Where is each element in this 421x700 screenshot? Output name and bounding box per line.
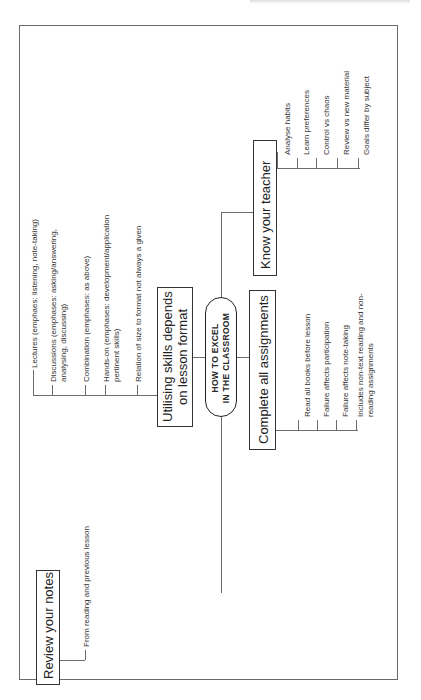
tick [33,370,34,395]
branch-review-notes-title: Review your notes [40,572,57,679]
leaf-item: From reading and previous lesson [82,526,92,647]
branch-lesson-format: Utilising skills depends on lesson forma… [157,287,193,427]
assignments-bracket [276,430,358,431]
spine-line-vertical-lower [221,417,222,592]
review-bracket [60,660,85,661]
connector-assignments [237,357,249,358]
tick [317,420,318,430]
leaf-item: Discussions (emphases: asking/answering,… [49,229,69,382]
branch-assignments-title: Complete all assignments [254,295,273,444]
branch-lesson-format-title: Utilising skills depends on lesson forma… [160,292,190,422]
leaf-item: Read all books before lesson [303,314,313,417]
leaf-line: reading assignments [366,293,376,417]
leaf-item: Includes non-text reading and non- readi… [356,293,376,417]
know-teacher-bracket [277,168,360,169]
tick [85,385,86,395]
tick [358,158,359,168]
tick [277,152,278,168]
leaf-item: Lectures (emphaes: listening, note-takin… [30,219,40,368]
tick [52,385,53,395]
branch-review-notes: Review your notes [36,570,60,685]
spine-line-vertical [221,212,222,297]
leaf-line: Hands-on (emphases: development/applicat… [102,215,112,382]
central-topic-line2: IN THE CLASSROOM [221,310,232,406]
central-topic-text: HOW TO EXCEL IN THE CLASSROOM [210,310,232,406]
leaf-item: Hands-on (emphases: development/applicat… [102,215,122,382]
tick [316,158,317,168]
leaf-item: Learn preferences [302,90,312,155]
connector-review-notes [221,592,222,593]
branch-know-teacher-title: Know your teacher [257,161,274,269]
lesson-format-bracket [33,395,157,396]
branch-title-line2: on lesson format [175,292,190,422]
tick [336,420,337,430]
leaf-item: Failure affects note-taking [341,325,351,417]
central-topic-line1: HOW TO EXCEL [210,310,221,406]
branch-assignments: Complete all assignments [249,290,276,450]
leaf-line: pertinent skills) [112,215,122,382]
tick [337,158,338,168]
leaf-item: Control vs chaos [322,95,332,155]
tick [356,420,357,430]
leaf-item: Failure affects participation [322,322,332,417]
connector-lesson-format [193,357,205,358]
tick [297,158,298,168]
leaf-item: Review vs new material [342,71,352,155]
page-header-cutoff [250,0,410,4]
branch-title-line1: Utilising skills depends [160,292,175,422]
tick [137,385,138,395]
leaf-item: Combination (emphases: as above) [82,256,92,382]
branch-know-teacher: Know your teacher [253,140,277,276]
connector-know-teacher [221,212,256,213]
central-topic: HOW TO EXCEL IN THE CLASSROOM [205,297,237,417]
tick [85,650,86,660]
tick [105,385,106,395]
leaf-line: Discussions (emphases: asking/answering, [49,229,59,382]
leaf-item: Relation of size to format not always a … [134,225,144,382]
leaf-line: analysing, discussing) [59,229,69,382]
leaf-item: Goals differ by subject [362,76,372,155]
leaf-line: Includes non-text reading and non- [356,293,366,417]
leaf-item: Analyse habits [283,103,293,155]
tick [298,420,299,430]
